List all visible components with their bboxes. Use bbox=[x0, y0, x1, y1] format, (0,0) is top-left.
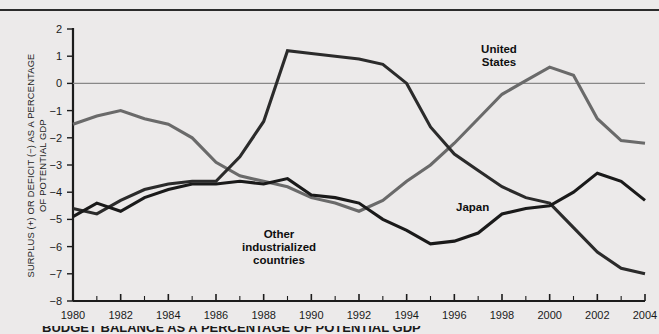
x-tick-label: 1992 bbox=[347, 309, 371, 321]
x-tick-label: 1984 bbox=[156, 309, 180, 321]
y-tick-label: 2 bbox=[56, 23, 62, 35]
x-tick-label: 2002 bbox=[585, 309, 609, 321]
y-tick-label: −8 bbox=[49, 295, 62, 307]
y-tick-label: −2 bbox=[49, 132, 62, 144]
chart-plot-area: 210−1−2−3−4−5−6−7−8198019821984198619881… bbox=[0, 0, 659, 334]
y-tick-label: 1 bbox=[56, 50, 62, 62]
annotation-united-states: UnitedStates bbox=[481, 43, 517, 68]
y-tick-label: 0 bbox=[56, 77, 62, 89]
x-tick-label: 2000 bbox=[537, 309, 561, 321]
y-tick-label: −7 bbox=[49, 268, 62, 280]
annotation-other-industrialized: Otherindustrializedcountries bbox=[242, 228, 316, 266]
y-tick-label: −1 bbox=[49, 105, 62, 117]
chart-figure: SURPLUS (+) OR DEFICIT (−) AS A PERCENTA… bbox=[0, 0, 659, 334]
x-tick-label: 1994 bbox=[394, 309, 418, 321]
chart-caption-clip: BUDGET BALANCE AS A PERCENTAGE OF POTENT… bbox=[42, 326, 642, 334]
x-tick-label: 1996 bbox=[442, 309, 466, 321]
x-tick-label: 1982 bbox=[108, 309, 132, 321]
y-tick-label: −5 bbox=[49, 213, 62, 225]
series-line-other-industrialized-countries bbox=[73, 51, 645, 274]
annotation-japan: Japan bbox=[456, 201, 489, 213]
x-tick-label: 2004 bbox=[633, 309, 657, 321]
x-tick-label: 1988 bbox=[251, 309, 275, 321]
x-tick-label: 1990 bbox=[299, 309, 323, 321]
x-tick-label: 1998 bbox=[490, 309, 514, 321]
chart-caption: BUDGET BALANCE AS A PERCENTAGE OF POTENT… bbox=[42, 326, 421, 334]
x-tick-label: 1986 bbox=[204, 309, 228, 321]
y-tick-label: −6 bbox=[49, 241, 62, 253]
y-tick-label: −4 bbox=[49, 186, 62, 198]
y-tick-label: −3 bbox=[49, 159, 62, 171]
x-tick-label: 1980 bbox=[61, 309, 85, 321]
series-line-united-states bbox=[73, 67, 645, 211]
series-line-japan bbox=[73, 173, 645, 244]
